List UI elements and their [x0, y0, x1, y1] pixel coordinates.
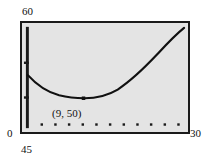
x-axis-ticks	[41, 123, 180, 125]
y-axis-tick	[24, 96, 29, 98]
point-annotation-label: (9, 50)	[52, 108, 81, 119]
graph-screenshot: 60	[0, 0, 203, 160]
y-axis-tick	[24, 62, 29, 64]
y-axis-line	[26, 27, 29, 128]
curve-line	[28, 28, 184, 98]
y-axis-max-label: 60	[22, 6, 33, 17]
minimum-point-marker	[82, 97, 86, 100]
x-axis-min-label: 45	[21, 144, 32, 155]
plot-canvas	[22, 23, 188, 132]
x-axis-max-label: 30	[190, 128, 201, 139]
plot-area	[20, 21, 190, 134]
y-axis-min-label: 0	[7, 128, 13, 139]
